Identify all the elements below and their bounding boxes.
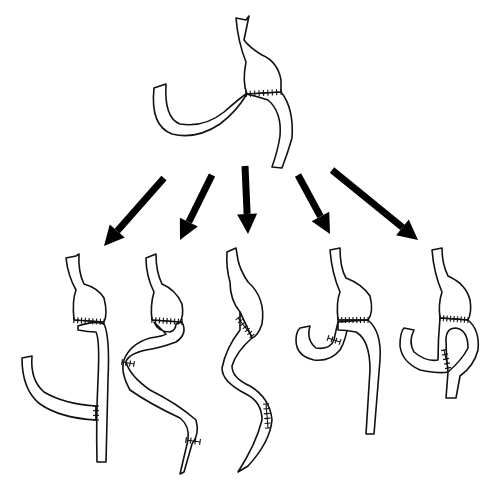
- gastrectomy-reconstruction-diagram: [0, 0, 496, 495]
